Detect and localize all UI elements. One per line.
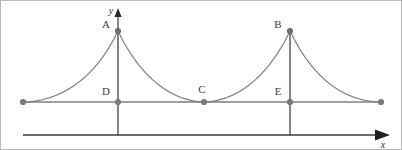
catenary-diagram-figure: A B C D E y x <box>0 0 402 150</box>
point-dot-right-anchor <box>378 99 384 105</box>
y-axis-arrowhead-icon <box>114 8 121 17</box>
point-label-B: B <box>274 18 281 30</box>
point-dot-C <box>201 99 207 105</box>
x-axis-label: x <box>380 139 386 150</box>
diagram-canvas: A B C D E y x <box>1 1 402 150</box>
y-axis-label: y <box>108 5 114 16</box>
point-label-C: C <box>198 83 205 95</box>
cable-right-span <box>290 31 381 102</box>
point-dot-E <box>287 99 293 105</box>
point-dot-B <box>287 28 293 34</box>
point-label-E: E <box>275 85 282 97</box>
point-dot-A <box>115 28 121 34</box>
cable-mid-left-span <box>118 31 204 102</box>
point-dot-left-anchor <box>20 99 26 105</box>
vertex-label-group: A B C D E <box>102 18 282 97</box>
point-label-A: A <box>102 18 110 30</box>
point-dot-D <box>115 99 121 105</box>
point-label-D: D <box>102 85 110 97</box>
